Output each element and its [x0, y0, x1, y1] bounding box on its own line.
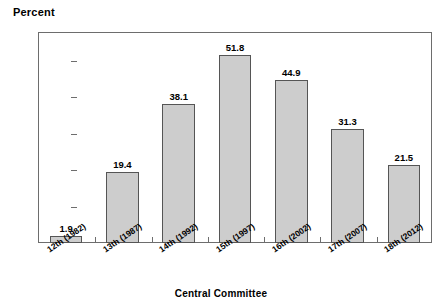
y-axis-title: Percent	[13, 6, 55, 18]
bar-slot: 21.5	[388, 32, 421, 243]
bar-value-label: 51.8	[226, 42, 245, 53]
bar-value-label: 38.1	[169, 91, 188, 102]
bar-slot: 38.1	[162, 32, 195, 243]
bar-slot: 44.9	[275, 32, 308, 243]
x-axis-title: Central Committee	[0, 288, 442, 299]
bar-value-label: 31.3	[338, 116, 357, 127]
bar	[219, 55, 252, 243]
x-axis-labels: 12th (1982)13th (1987)14th (1992)15th (1…	[38, 246, 432, 291]
bar	[275, 80, 308, 243]
bar-value-label: 19.4	[113, 159, 132, 170]
bar-slot: 51.8	[219, 32, 252, 243]
bars-layer: 1.919.438.151.844.931.321.5	[38, 32, 432, 243]
bar-value-label: 44.9	[282, 67, 301, 78]
bar-slot: 1.9	[50, 32, 83, 243]
bar-slot: 31.3	[331, 32, 364, 243]
bar-value-label: 21.5	[395, 152, 414, 163]
bar-chart: Percent 10.020.030.040.050.0 1.919.438.1…	[0, 0, 442, 307]
bar-slot: 19.4	[106, 32, 139, 243]
